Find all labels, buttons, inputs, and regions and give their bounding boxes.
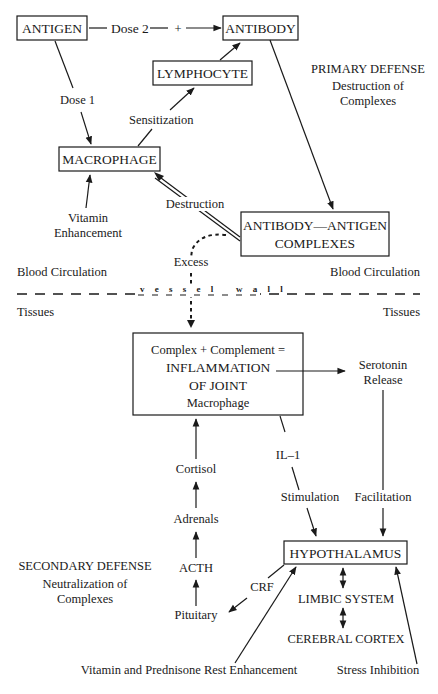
svg-text:Destruction: Destruction: [166, 197, 225, 211]
edge-complexes-to-macrophage-destruction: Destruction: [154, 172, 240, 241]
svg-text:CRF: CRF: [250, 580, 274, 594]
edge-hypothalamus-to-pituitary: CRF: [229, 565, 284, 612]
node-acth: ACTH: [179, 561, 213, 575]
svg-text:OF JOINT: OF JOINT: [189, 378, 248, 393]
svg-text:Dose 1: Dose 1: [60, 93, 95, 107]
node-lymphocyte: LYMPHOCYTE: [153, 61, 252, 85]
node-antibody: ANTIBODY: [223, 16, 298, 40]
svg-text:ANTIBODY—ANTIGEN: ANTIBODY—ANTIGEN: [243, 218, 387, 233]
svg-text:Macrophage: Macrophage: [187, 396, 250, 410]
svg-text:Enhancement: Enhancement: [54, 226, 123, 240]
svg-text:Neutralization of: Neutralization of: [42, 577, 128, 591]
edge-stress-inhibition-to-hypothalamus: Stress Inhibition: [337, 567, 420, 677]
svg-text:Destruction of: Destruction of: [332, 79, 405, 93]
primary-defense-annotation: PRIMARY DEFENSE Destruction of Complexes: [311, 62, 425, 108]
edge-antigen-to-macrophage: Dose 1: [55, 41, 95, 144]
svg-text:Dose 2: Dose 2: [111, 21, 149, 36]
node-hypothalamus: HYPOTHALAMUS: [284, 541, 407, 564]
svg-text:Serotonin: Serotonin: [359, 358, 408, 372]
svg-text:Vitamin and Prednisone Rest En: Vitamin and Prednisone Rest Enhancement: [81, 663, 298, 677]
edge-lymphocyte-to-antibody: [220, 43, 240, 60]
node-inflammation-of-joint: Complex + Complement = INFLAMMATION OF J…: [133, 333, 303, 415]
svg-text:Complexes: Complexes: [57, 592, 113, 606]
svg-text:MACROPHAGE: MACROPHAGE: [62, 152, 157, 167]
svg-text:ANTIBODY: ANTIBODY: [225, 21, 296, 36]
node-cortisol: Cortisol: [176, 462, 217, 476]
node-limbic-system: LIMBIC SYSTEM: [298, 592, 394, 606]
label-tissues-left: Tissues: [17, 305, 54, 319]
svg-text:Vitamin: Vitamin: [68, 211, 109, 225]
svg-text:Facilitation: Facilitation: [355, 490, 413, 504]
vessel-wall-label: v e s s e l w a l l: [140, 284, 287, 294]
svg-text:Stimulation: Stimulation: [281, 490, 340, 504]
node-antigen: ANTIGEN: [17, 16, 87, 40]
edge-antigen-to-antibody: Dose 2 +: [89, 21, 221, 36]
immune-defense-diagram: ANTIGEN ANTIBODY LYMPHOCYTE MACROPHAGE A…: [0, 0, 438, 694]
svg-text:IL–1: IL–1: [276, 448, 300, 462]
svg-text:PRIMARY DEFENSE: PRIMARY DEFENSE: [311, 62, 425, 76]
edge-serotonin-to-hypothalamus: Facilitation: [355, 390, 413, 536]
svg-text:SECONDARY DEFENSE: SECONDARY DEFENSE: [18, 559, 152, 573]
edge-macrophage-to-lymphocyte: Sensitization: [129, 88, 194, 146]
edge-vitamin-to-macrophage: Vitamin Enhancement: [54, 175, 123, 240]
svg-text:Stress Inhibition: Stress Inhibition: [337, 663, 420, 677]
node-macrophage: MACROPHAGE: [59, 147, 160, 171]
svg-text:Sensitization: Sensitization: [129, 113, 194, 127]
edge-complexes-excess-to-tissues: Excess: [174, 235, 226, 328]
node-antibody-antigen-complexes: ANTIBODY—ANTIGEN COMPLEXES: [241, 212, 389, 256]
svg-text:COMPLEXES: COMPLEXES: [275, 236, 355, 251]
label-blood-circulation-left: Blood Circulation: [17, 265, 108, 279]
svg-text:Release: Release: [364, 373, 403, 387]
svg-text:INFLAMMATION: INFLAMMATION: [166, 360, 271, 375]
svg-text:Complex + Complement =: Complex + Complement =: [151, 343, 285, 357]
secondary-defense-annotation: SECONDARY DEFENSE Neutralization of Comp…: [18, 559, 152, 606]
svg-text:Complexes: Complexes: [340, 94, 396, 108]
svg-text:Excess: Excess: [174, 255, 209, 269]
svg-text:HYPOTHALAMUS: HYPOTHALAMUS: [290, 546, 402, 561]
svg-text:LYMPHOCYTE: LYMPHOCYTE: [157, 66, 248, 81]
node-serotonin-release: Serotonin Release: [359, 358, 408, 387]
node-pituitary: Pituitary: [174, 608, 218, 622]
label-blood-circulation-right: Blood Circulation: [330, 265, 421, 279]
node-adrenals: Adrenals: [173, 512, 218, 526]
node-cerebral-cortex: CEREBRAL CORTEX: [287, 632, 404, 646]
label-tissues-right: Tissues: [383, 305, 420, 319]
svg-text:+: +: [174, 22, 181, 36]
svg-text:ANTIGEN: ANTIGEN: [22, 21, 82, 36]
edge-inflammation-to-hypothalamus: IL–1 Stimulation: [276, 416, 340, 536]
